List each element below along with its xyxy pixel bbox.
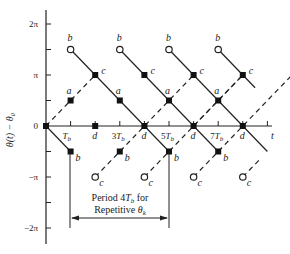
point-label: a (165, 85, 170, 96)
point-label: b (223, 152, 228, 163)
x-tick-label: 7Tb (210, 131, 224, 143)
point-label: b (166, 32, 171, 43)
point-label: c (198, 177, 203, 188)
y-tick-label: π (33, 70, 38, 80)
phase-trellis-diagram: 2ππ0−π−2π Tb3Tb5Tb7Tb t θ(t) − θ₀ babbab… (0, 0, 290, 254)
open-point (117, 46, 123, 52)
period-label-line2: Repetitive θk (94, 204, 147, 217)
point-label: c (249, 65, 254, 76)
filled-point (215, 98, 221, 104)
point-label: b (174, 152, 179, 163)
filled-point (240, 123, 246, 129)
point-label: b (125, 152, 130, 163)
point-label: a (67, 85, 72, 96)
y-tick-label: −2π (24, 223, 39, 233)
y-tick-label: −π (28, 172, 38, 182)
point-label: c (99, 177, 104, 188)
point-label: c (101, 65, 106, 76)
filled-point (141, 72, 147, 78)
filled-point (191, 123, 197, 129)
x-tick-label: 5Tb (161, 131, 175, 143)
point-label: a (214, 85, 219, 96)
open-point (215, 46, 221, 52)
point-label: c (247, 177, 252, 188)
open-point (166, 46, 172, 52)
point-label: b (215, 32, 220, 43)
arrow-right-icon (160, 216, 168, 221)
y-tick-label: 0 (34, 121, 39, 131)
x-tick-label: 3Tb (112, 131, 126, 143)
point-label: c (200, 65, 205, 76)
point-label: a (116, 85, 121, 96)
open-point (92, 174, 98, 180)
point-label: b (76, 152, 81, 163)
filled-point (117, 149, 123, 155)
filled-point (92, 123, 98, 129)
point-label: d (191, 130, 197, 141)
filled-point (191, 72, 197, 78)
y-tick-label: 2π (29, 19, 39, 29)
period-annotation: Period 4Tb for Repetitive θk (70, 151, 169, 228)
filled-point (68, 98, 74, 104)
point-label: d (141, 130, 147, 141)
point-label: b (117, 32, 122, 43)
filled-point (166, 98, 172, 104)
open-point (141, 174, 147, 180)
phase-paths (46, 50, 290, 178)
x-tick-label: Tb (63, 131, 72, 143)
point-label: c (148, 177, 153, 188)
filled-point (141, 123, 147, 129)
filled-point (68, 149, 74, 155)
point-label: d (240, 130, 246, 141)
open-point (240, 174, 246, 180)
point-label: d (92, 130, 98, 141)
filled-point (92, 72, 98, 78)
filled-point (117, 98, 123, 104)
point-label: c (150, 65, 155, 76)
arrow-left-icon (71, 216, 79, 221)
filled-point (215, 149, 221, 155)
y-axis-label: θ(t) − θ₀ (4, 112, 16, 147)
filled-point (43, 123, 49, 129)
phase-points (43, 46, 246, 180)
open-point (190, 174, 196, 180)
open-point (67, 46, 73, 52)
x-axis-label: t (271, 130, 274, 141)
point-label: b (68, 32, 73, 43)
filled-point (240, 72, 246, 78)
